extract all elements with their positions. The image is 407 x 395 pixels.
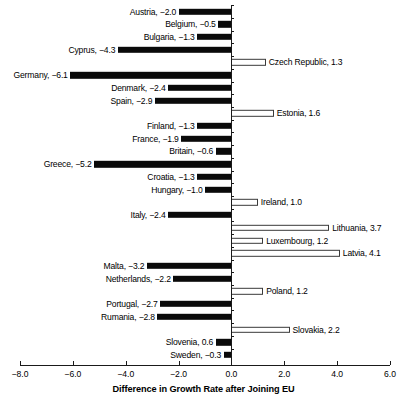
x-tick-label: −8.0 — [12, 370, 29, 379]
x-tick — [126, 361, 127, 365]
bar-germany[interactable] — [70, 72, 231, 78]
bar-row: Lithuania, 3.7 — [0, 221, 407, 234]
bar-label-lithuania: Lithuania, 3.7 — [332, 223, 381, 232]
bar-britain[interactable] — [216, 148, 232, 154]
bar-label-greece: Greece, −5.2 — [44, 160, 92, 169]
bar-row: Luxembourg, 1.2 — [0, 234, 407, 247]
bar-cyprus[interactable] — [118, 47, 232, 53]
x-tick-label: 6.0 — [384, 370, 396, 379]
x-tick — [337, 361, 338, 365]
bar-row: Czech Republic, 1.3 — [0, 56, 407, 69]
bar-label-britain: Britain, −0.6 — [169, 147, 213, 156]
x-axis-title: Difference in Growth Rate after Joining … — [0, 385, 407, 394]
x-tick-label: 4.0 — [331, 370, 343, 379]
bar-portugal[interactable] — [160, 301, 231, 307]
bar-row: Portugal, −2.7 — [0, 298, 407, 311]
plot-area: Austria, −2.0Belgium, −0.5Bulgaria, −1.3… — [0, 0, 407, 352]
bar-label-cyprus: Cyprus, −4.3 — [68, 45, 115, 54]
bar-label-czech-republic: Czech Republic, 1.3 — [269, 58, 343, 67]
bar-row: Cyprus, −4.3 — [0, 43, 407, 56]
bar-label-ireland: Ireland, 1.0 — [261, 198, 302, 207]
bar-row: Belgium, −0.5 — [0, 18, 407, 31]
bar-netherlands[interactable] — [173, 275, 231, 281]
x-tick — [73, 361, 74, 365]
bar-france[interactable] — [181, 136, 231, 142]
bar-austria[interactable] — [179, 8, 232, 14]
bar-row: France, −1.9 — [0, 132, 407, 145]
bar-label-spain: Spain, −2.9 — [110, 96, 152, 105]
bar-luxembourg[interactable] — [231, 237, 263, 243]
bar-label-denmark: Denmark, −2.4 — [111, 84, 165, 93]
bar-label-estonia: Estonia, 1.6 — [277, 109, 320, 118]
bar-row: Germany, −6.1 — [0, 69, 407, 82]
bar-label-sweden: Sweden, −0.3 — [170, 351, 221, 360]
x-axis-line — [20, 365, 390, 366]
bar-denmark[interactable] — [168, 85, 231, 91]
bar-label-hungary: Hungary, −1.0 — [151, 185, 202, 194]
bar-label-latvia: Latvia, 4.1 — [343, 249, 381, 258]
bar-row: Slovenia, 0.6 — [0, 336, 407, 349]
bar-bulgaria[interactable] — [197, 34, 231, 40]
bar-sweden[interactable] — [224, 352, 232, 358]
x-tick — [179, 361, 180, 365]
bar-row: Malta, −3.2 — [0, 260, 407, 273]
bar-row: Rumania, −2.8 — [0, 310, 407, 323]
bar-label-slovenia: Slovenia, 0.6 — [166, 338, 213, 347]
bar-slovakia[interactable] — [231, 326, 289, 332]
bar-label-portugal: Portugal, −2.7 — [106, 300, 157, 309]
x-tick — [390, 361, 391, 365]
bar-belgium[interactable] — [218, 21, 231, 27]
bar-czech-republic[interactable] — [231, 59, 265, 65]
bar-label-slovakia: Slovakia, 2.2 — [293, 325, 340, 334]
x-tick-label: −4.0 — [117, 370, 134, 379]
bar-greece[interactable] — [94, 161, 231, 167]
bar-row: Denmark, −2.4 — [0, 82, 407, 95]
bar-label-netherlands: Netherlands, −2.2 — [106, 274, 171, 283]
bar-label-malta: Malta, −3.2 — [103, 262, 144, 271]
bar-croatia[interactable] — [197, 174, 231, 180]
bar-estonia[interactable] — [231, 110, 273, 116]
bar-row: Ireland, 1.0 — [0, 196, 407, 209]
bar-label-france: France, −1.9 — [132, 134, 178, 143]
bar-hungary[interactable] — [205, 186, 231, 192]
bar-malta[interactable] — [147, 263, 232, 269]
bar-label-croatia: Croatia, −1.3 — [147, 173, 194, 182]
bar-rumania[interactable] — [157, 314, 231, 320]
bar-row: Greece, −5.2 — [0, 158, 407, 171]
bar-label-belgium: Belgium, −0.5 — [165, 20, 216, 29]
bar-row: Latvia, 4.1 — [0, 247, 407, 260]
bar-lithuania[interactable] — [231, 225, 329, 231]
bar-row: Netherlands, −2.2 — [0, 272, 407, 285]
bar-slovenia[interactable] — [216, 339, 232, 345]
zero-baseline — [231, 6, 232, 365]
bar-spain[interactable] — [155, 97, 232, 103]
bar-italy[interactable] — [168, 212, 231, 218]
bar-label-bulgaria: Bulgaria, −1.3 — [144, 33, 195, 42]
x-tick-label: 2.0 — [278, 370, 290, 379]
bar-label-poland: Poland, 1.2 — [266, 287, 308, 296]
bar-row: Spain, −2.9 — [0, 94, 407, 107]
bar-row: Finland, −1.3 — [0, 120, 407, 133]
x-tick-label: −6.0 — [64, 370, 81, 379]
x-tick — [284, 361, 285, 365]
bar-row: Croatia, −1.3 — [0, 171, 407, 184]
x-tick — [231, 361, 232, 365]
x-tick-label: −2.0 — [170, 370, 187, 379]
bar-latvia[interactable] — [231, 250, 339, 256]
bar-row: Slovakia, 2.2 — [0, 323, 407, 336]
bar-row: Bulgaria, −1.3 — [0, 31, 407, 44]
bar-ireland[interactable] — [231, 199, 257, 205]
bar-label-rumania: Rumania, −2.8 — [101, 313, 155, 322]
x-tick-label: 0.0 — [225, 370, 237, 379]
bar-label-italy: Italy, −2.4 — [131, 211, 166, 220]
bar-poland[interactable] — [231, 288, 263, 294]
bar-label-austria: Austria, −2.0 — [130, 7, 176, 16]
bar-row: Sweden, −0.3 — [0, 349, 407, 362]
bar-label-finland: Finland, −1.3 — [147, 122, 195, 131]
bar-row: Austria, −2.0 — [0, 5, 407, 18]
bar-finland[interactable] — [197, 123, 231, 129]
x-tick — [20, 361, 21, 365]
bar-row: Poland, 1.2 — [0, 285, 407, 298]
bar-row: Italy, −2.4 — [0, 209, 407, 222]
